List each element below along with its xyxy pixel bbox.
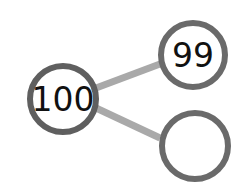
- whole-circle: 100: [30, 66, 96, 132]
- part-circle-top: 99: [161, 23, 225, 87]
- number-bond-diagram: 100 99: [0, 0, 252, 192]
- connector-top: [96, 64, 160, 88]
- part-top-value: 99: [172, 36, 214, 75]
- whole-value: 100: [32, 80, 95, 119]
- part-circle-bottom[interactable]: [162, 113, 228, 179]
- connector-bottom: [96, 108, 160, 138]
